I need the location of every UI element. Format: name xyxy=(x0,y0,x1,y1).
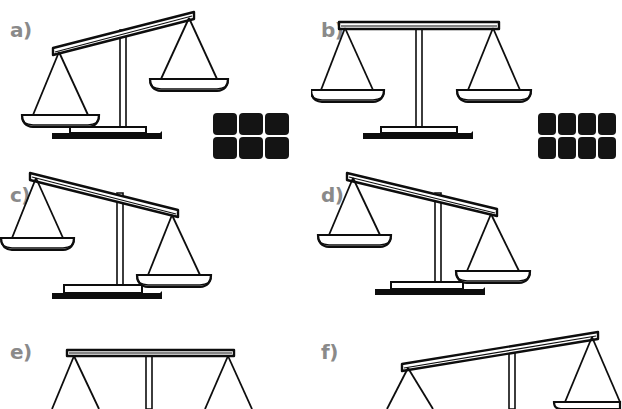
scale-right-pan-c xyxy=(137,215,211,287)
block-item xyxy=(213,113,237,135)
balance-scale-e xyxy=(0,330,311,409)
scale-left-pan-f xyxy=(387,368,433,409)
block-group-b xyxy=(537,112,619,160)
scale-beam-e xyxy=(67,350,234,356)
scale-right-pan-b xyxy=(457,28,531,102)
scale-left-pan-e xyxy=(52,356,99,409)
block-item xyxy=(578,113,596,135)
balance-scale-d xyxy=(311,165,622,335)
balance-scales-figure: a) xyxy=(0,0,622,409)
panel-b: b) xyxy=(311,0,622,170)
scale-beam-b xyxy=(339,22,499,29)
scale-beam-f xyxy=(402,332,598,371)
block-item xyxy=(598,137,616,159)
block-item xyxy=(265,113,289,135)
scale-right-pan-e xyxy=(205,356,252,409)
block-item xyxy=(265,137,289,159)
block-item xyxy=(213,137,237,159)
panel-d: d) xyxy=(311,165,622,335)
balance-scale-f xyxy=(311,330,622,409)
panel-c: c) xyxy=(0,165,311,335)
block-item xyxy=(578,137,596,159)
block-item xyxy=(538,137,556,159)
scale-beam-a xyxy=(53,12,194,55)
block-item xyxy=(239,113,263,135)
scale-beam-d xyxy=(347,173,497,216)
scale-stand-f xyxy=(509,348,515,409)
block-item xyxy=(558,113,576,135)
scale-beam-c xyxy=(30,173,178,217)
scale-left-pan-a xyxy=(22,52,99,127)
balance-scale-c xyxy=(0,165,311,335)
panel-f: f) xyxy=(311,330,622,409)
panel-e: e) xyxy=(0,330,311,409)
scale-stand-b xyxy=(363,24,473,139)
block-item xyxy=(558,137,576,159)
scale-right-pan-a xyxy=(150,18,228,91)
block-item xyxy=(598,113,616,135)
scale-stand-e xyxy=(146,354,152,409)
block-group-a xyxy=(212,112,292,160)
scale-right-pan-f xyxy=(554,337,620,409)
scale-right-pan-d xyxy=(456,214,530,283)
scale-left-pan-b xyxy=(311,28,384,102)
block-item xyxy=(538,113,556,135)
block-item xyxy=(239,137,263,159)
panel-a: a) xyxy=(0,0,311,170)
